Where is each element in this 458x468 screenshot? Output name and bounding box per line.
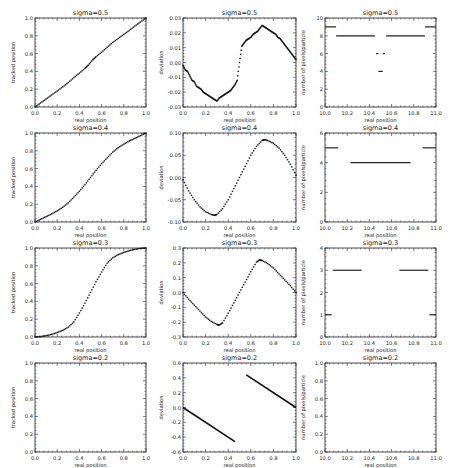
x-tick-label: 11.0 [430,225,442,231]
y-tick-label: 0 [320,334,323,340]
plot-frame [325,248,436,337]
subplot-r1c3: sigma=0.510.010.210.410.610.811.00246810… [300,9,442,124]
y-tick-label: 0.6 [25,166,33,172]
x-tick-label: 1.0 [292,110,300,116]
x-tick-label: 0.2 [53,110,61,116]
x-axis-label: real position [74,117,106,124]
y-tick-label: 0.0 [25,104,33,110]
x-tick-label: 0.0 [179,340,187,346]
y-tick-label: 1.0 [315,360,323,366]
subplot-title: sigma=0.2 [363,354,398,362]
y-tick-label: 0.00 [169,60,181,66]
x-tick-label: 0.2 [201,225,209,231]
y-tick-label: 0.8 [25,378,33,384]
x-tick-label: 0.6 [97,225,105,231]
subplot-title: sigma=0.5 [222,9,257,17]
x-tick-label: 0.2 [201,110,209,116]
plot-frame [325,133,436,222]
data-points [182,259,296,326]
y-tick-label: -0.6 [171,449,181,455]
y-tick-label: 1.0 [25,360,33,366]
y-axis-label: deviation [158,395,164,419]
y-tick-label: 0.8 [25,33,33,39]
x-tick-label: 0.2 [53,340,61,346]
y-tick-label: 0.0 [315,449,323,455]
y-tick-label: 1.0 [25,245,33,251]
plot-frame [35,363,146,452]
y-axis-label: tracked position [10,272,17,314]
y-tick-label: -0.2 [171,319,181,325]
x-tick-label: 0.8 [269,225,277,231]
y-tick-label: -0.4 [171,434,182,440]
x-tick-label: 0.8 [120,225,128,231]
subplot-title: sigma=0.4 [73,124,108,132]
x-tick-label: 0.4 [224,225,233,231]
x-tick-label: 1.0 [142,110,150,116]
y-tick-label: 0.2 [25,201,33,207]
y-tick-label: 0.8 [25,263,33,269]
subplot-r4c3: sigma=0.210.010.210.410.610.811.00.00.20… [300,354,442,468]
x-tick-label: 0.0 [31,225,39,231]
y-tick-label: 0.00 [169,175,181,181]
y-tick-label: 6 [320,51,323,57]
y-tick-label: 0.8 [25,148,33,154]
x-tick-label: 0.4 [224,340,233,346]
y-tick-label: 0.4 [25,413,34,419]
y-tick-label: 0.0 [25,219,33,225]
x-tick-label: 10.8 [408,340,420,346]
x-tick-label: 10.4 [364,110,376,116]
y-tick-label: 0.02 [169,30,181,36]
x-tick-label: 0.8 [269,340,277,346]
x-tick-label: 0.6 [97,110,105,116]
y-tick-label: 6 [320,130,323,136]
x-tick-label: 0.6 [247,110,255,116]
x-tick-label: 1.0 [142,225,150,231]
y-tick-label: 0.4 [25,183,34,189]
data-line [183,408,235,442]
subplot-title: sigma=0.5 [363,9,398,17]
y-axis-label: deviation [158,280,164,304]
x-tick-label: 10.8 [408,225,420,231]
x-tick-label: 10.4 [364,225,376,231]
y-tick-label: 0.3 [173,245,181,251]
y-tick-label: 0.01 [169,45,181,51]
y-tick-label: -0.10 [168,219,181,225]
x-tick-label: 10.2 [341,340,353,346]
y-tick-label: -0.02 [168,89,181,95]
x-tick-label: 0.8 [120,110,128,116]
y-tick-label: 0 [320,219,323,225]
y-tick-label: 0.4 [25,298,34,304]
x-tick-label: 0.8 [269,110,277,116]
y-tick-label: 0.2 [315,431,323,437]
plot-frame [325,18,436,107]
subplot-r4c1: sigma=0.20.00.20.40.60.81.00.00.20.40.60… [10,354,150,468]
data-points [34,247,146,337]
y-tick-label: -0.2 [171,419,181,425]
y-tick-label: 0.4 [173,375,182,381]
y-tick-label: 1 [320,312,323,318]
x-tick-label: 11.0 [430,110,442,116]
figure-canvas: sigma=0.50.00.20.40.60.81.00.00.20.40.60… [0,0,458,468]
x-tick-label: 0.6 [97,340,105,346]
y-tick-label: 0.10 [169,130,181,136]
y-tick-label: 3 [320,267,323,273]
x-tick-label: 10.6 [386,225,398,231]
x-tick-label: 0.4 [75,225,84,231]
y-tick-label: 0.0 [173,405,181,411]
x-tick-label: 10.2 [341,110,353,116]
subplot-title: sigma=0.4 [222,124,257,132]
y-tick-label: 10 [316,15,323,21]
data-line [246,375,296,408]
y-tick-label: 0.0 [173,290,181,296]
y-tick-label: 0.6 [315,396,323,402]
x-axis-label: real position [74,232,106,239]
y-tick-label: 0.03 [169,15,181,21]
x-axis-label: real position [364,117,396,124]
figure-grid: sigma=0.50.00.20.40.60.81.00.00.20.40.60… [0,0,458,468]
y-tick-label: 0.6 [25,51,33,57]
y-tick-label: 0.4 [315,413,324,419]
subplot-title: sigma=0.3 [222,239,257,247]
x-axis-label: real position [364,232,396,239]
y-tick-label: 2 [320,290,323,296]
y-tick-label: 2 [320,86,323,92]
